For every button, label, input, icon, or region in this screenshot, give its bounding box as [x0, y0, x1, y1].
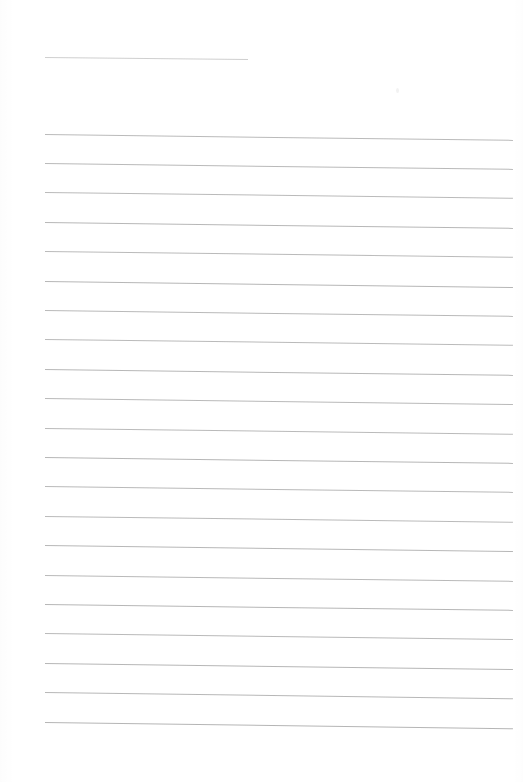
paper-surface: [0, 0, 523, 782]
scanned-page: [0, 0, 523, 782]
